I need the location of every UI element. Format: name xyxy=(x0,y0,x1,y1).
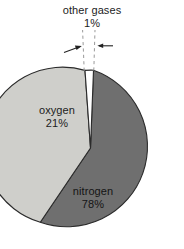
slice-label-oxygen: oxygen 21% xyxy=(22,104,92,130)
slice-label-nitrogen-value: 78% xyxy=(50,198,136,211)
callout-arrow-right-icon xyxy=(97,44,113,49)
callout-leader-line-right xyxy=(94,30,95,71)
pie-chart-figure: other gases 1% oxygen 21% nitrogen 78% xyxy=(0,0,184,249)
slice-label-nitrogen-name: nitrogen xyxy=(50,185,136,198)
slice-label-nitrogen: nitrogen 78% xyxy=(50,185,136,211)
callout-leader-line-left xyxy=(83,30,85,71)
slice-label-oxygen-name: oxygen xyxy=(22,104,92,117)
slice-label-oxygen-value: 21% xyxy=(22,117,92,130)
callout-arrow-left-icon xyxy=(64,46,82,53)
callout-label-other-gases: other gases xyxy=(0,4,184,17)
callout-value-other-gases: 1% xyxy=(0,17,184,30)
